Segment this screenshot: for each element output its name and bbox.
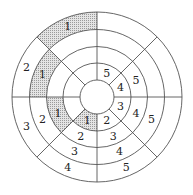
- cell-label: 4: [116, 145, 123, 158]
- cell-label: 2: [103, 114, 110, 127]
- cell-label: 5: [103, 67, 110, 80]
- grid-lines: [12, 12, 182, 182]
- cell-label: 3: [110, 130, 117, 143]
- cell-label: 1: [39, 68, 46, 81]
- cell-label: 2: [23, 61, 30, 74]
- cell-label: 3: [117, 100, 124, 113]
- cell-label: 3: [23, 120, 30, 133]
- cell-label: 4: [117, 81, 124, 94]
- cell-label: 4: [133, 107, 140, 120]
- cell-label: 5: [123, 161, 130, 174]
- cell-label: 5: [133, 74, 140, 87]
- cell-label: 1: [84, 114, 91, 127]
- cell-label: 2: [39, 113, 46, 126]
- cell-label: 1: [64, 20, 71, 33]
- cell-label: 3: [71, 145, 78, 158]
- cell-label: 2: [77, 130, 84, 143]
- cell-label: 4: [64, 161, 71, 174]
- cell-label: 1: [54, 107, 61, 120]
- center-circle: [80, 80, 114, 114]
- polar-grid-diagram: 45511212312342345345: [0, 0, 193, 195]
- cell-label: 5: [148, 113, 155, 126]
